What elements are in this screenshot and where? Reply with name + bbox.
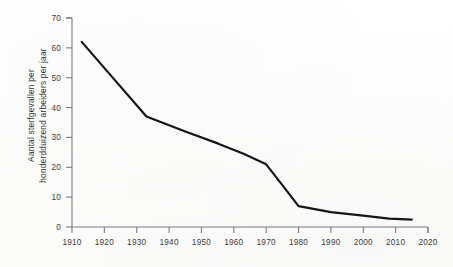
x-tick-label: 1940: [159, 238, 178, 247]
x-tick-label: 1960: [224, 238, 243, 247]
x-tick-label: 2000: [354, 238, 373, 247]
y-tick-label: 50: [51, 74, 61, 83]
line-chart-canvas: 010203040506070 191019201930194019501960…: [0, 0, 453, 267]
y-axis-ticks: 010203040506070: [51, 14, 72, 232]
y-tick-label: 40: [51, 104, 61, 113]
x-tick-label: 1910: [62, 238, 81, 247]
x-tick-label: 1930: [127, 238, 146, 247]
y-tick-label: 0: [56, 223, 61, 232]
y-axis-title-line-1: Aantal sterfgevallen per: [26, 16, 38, 216]
y-tick-label: 70: [51, 14, 61, 23]
x-tick-label: 1990: [321, 238, 340, 247]
y-tick-label: 60: [51, 44, 61, 53]
y-tick-label: 10: [51, 193, 61, 202]
y-axis-title-line-2: honderdduizend arbeiders per jaar: [37, 16, 49, 216]
x-tick-label: 1980: [289, 238, 308, 247]
data-series-line-0: [82, 42, 412, 220]
y-tick-label: 20: [51, 163, 61, 172]
axes: [66, 18, 428, 233]
x-axis-ticks: 1910192019301940195019601970198019902000…: [62, 227, 437, 247]
data-series-group: [82, 42, 412, 220]
x-tick-label: 2020: [418, 238, 437, 247]
x-tick-label: 1970: [257, 238, 276, 247]
x-tick-label: 2010: [386, 238, 405, 247]
x-tick-label: 1920: [95, 238, 114, 247]
chart-figure: 010203040506070 191019201930194019501960…: [0, 0, 453, 267]
y-axis-title: Aantal sterfgevallen per honderdduizend …: [26, 16, 49, 216]
y-tick-label: 30: [51, 133, 61, 142]
x-tick-label: 1950: [192, 238, 211, 247]
